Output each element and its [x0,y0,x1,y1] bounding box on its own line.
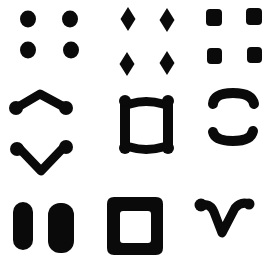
diamond-icon [120,52,135,76]
arc-top-icon [213,93,254,104]
diamond-icon [160,8,175,32]
cell-8-square-ring [107,197,163,255]
dot-icon [20,42,36,59]
dot-icon [162,95,174,107]
cell-7-pills [13,202,74,253]
cell-5-bar-square [125,101,168,150]
cell-4-caret-v [18,94,64,171]
pill-icon [13,202,33,250]
cell-6-arcs [213,93,254,141]
dot-icon [59,101,73,115]
dot-icon [119,95,131,107]
diamond-icon [121,7,136,31]
square-icon [206,9,222,26]
cell-3-squares [206,8,262,64]
dot-icon [63,42,79,59]
square-icon [246,8,262,25]
dot-icon [9,101,23,115]
curled-v-icon [200,203,249,233]
square-icon [207,48,222,64]
pill-icon [48,203,74,253]
top-bar [130,102,163,105]
dot-icon [244,199,255,210]
cell-9-curled-v [200,203,249,233]
bottom-bar [130,147,163,150]
pattern-grid: Gestalt grouping patterns 3x3 [0,0,263,263]
chevron-down-icon [19,147,64,171]
square-icon [247,47,262,63]
cell-1-dots [20,11,79,59]
caret-up-icon [18,94,64,107]
dot-icon [162,142,174,154]
arc-bottom-icon [213,131,253,141]
dot-icon [20,11,36,28]
dot-icon [195,199,208,212]
pattern-canvas [0,0,263,263]
dot-icon [59,140,73,154]
dot-icon [119,142,131,154]
dot-icon [10,142,24,156]
diamond-icon [160,51,175,75]
dot-icon [62,11,78,28]
cell-2-diamonds [120,7,175,76]
